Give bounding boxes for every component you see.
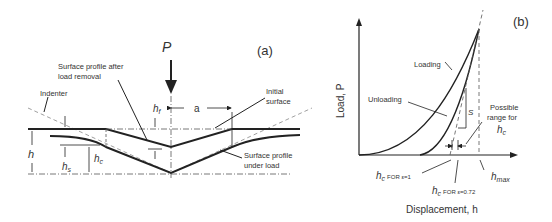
hf-label: hf <box>153 103 162 115</box>
initial-text-2: surface <box>266 97 291 106</box>
after-removal-text-2: load removal <box>58 72 101 81</box>
panel-a-label: (a) <box>257 43 273 58</box>
hmax-label: hmax <box>491 171 510 183</box>
x-axis-arrow-icon <box>510 152 518 158</box>
hs-label: hs <box>62 161 72 173</box>
load-symbol: P <box>162 39 172 55</box>
unloading-label: Unloading <box>368 95 402 104</box>
indenter-text: Indenter <box>40 89 68 98</box>
under-load-text-1: Surface profile <box>244 151 292 160</box>
stiffness-label: S <box>468 108 474 117</box>
load-arrow-icon <box>165 80 177 94</box>
panel-b: (b) Load, P Displacement, h Loading Unlo… <box>335 10 529 215</box>
y-axis-arrow-icon <box>356 18 362 26</box>
hc-eps1-label: hcFOR ε=1 <box>376 170 412 182</box>
panel-a: P (a) Surface profile after load removal… <box>28 39 312 178</box>
hc-eps072-label: hcFOR ε=0.72 <box>432 185 476 197</box>
a-label: a <box>194 103 200 114</box>
y-axis-label: Load, P <box>335 83 346 118</box>
after-removal-text-1: Surface profile after <box>58 62 124 71</box>
panel-b-label: (b) <box>513 14 529 29</box>
under-load-text-2: under load <box>244 161 279 170</box>
loading-curve <box>359 29 479 155</box>
h-label: h <box>28 148 34 160</box>
loading-label: Loading <box>414 60 441 69</box>
x-axis-label: Displacement, h <box>406 204 478 215</box>
indentation-diagram: P (a) Surface profile after load removal… <box>0 0 552 222</box>
hc-label: hc <box>94 153 104 165</box>
possible-hc: hc <box>497 124 507 136</box>
initial-text-1: Initial <box>266 87 284 96</box>
possible-text-2: range for <box>487 113 518 122</box>
possible-text-1: Possible <box>490 103 518 112</box>
